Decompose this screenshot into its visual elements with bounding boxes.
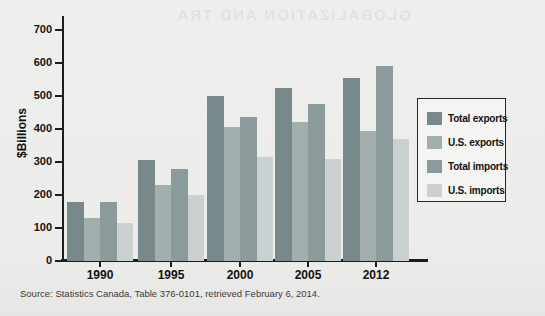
y-tick-label: 0 xyxy=(24,254,52,266)
y-tick-mark xyxy=(55,62,62,64)
bar-total-imports-2012 xyxy=(376,66,393,261)
bar-total-exports-2000 xyxy=(207,96,224,261)
y-axis-line xyxy=(62,16,64,262)
legend-label: U.S. exports xyxy=(448,137,504,148)
y-tick-mark xyxy=(55,95,62,97)
legend-item: U.S. imports xyxy=(427,178,505,202)
y-tick-mark xyxy=(55,227,62,229)
x-tick-label: 1990 xyxy=(78,268,122,282)
bar-total-imports-1995 xyxy=(171,169,188,261)
y-tick-label: 100 xyxy=(24,221,52,233)
y-tick-label: 200 xyxy=(24,188,52,200)
bar-u-s-exports-2005 xyxy=(292,122,309,261)
legend-item: Total imports xyxy=(427,154,505,178)
bar-total-imports-2000 xyxy=(240,117,257,261)
bar-u-s-imports-1995 xyxy=(188,195,205,261)
bar-total-imports-1990 xyxy=(100,202,117,261)
x-tick-label: 2005 xyxy=(286,268,330,282)
bar-u-s-imports-2005 xyxy=(325,159,342,261)
bar-u-s-imports-1990 xyxy=(117,223,134,261)
y-tick-mark xyxy=(55,260,62,262)
source-note: Source: Statistics Canada, Table 376-010… xyxy=(20,288,320,299)
x-tick-mark xyxy=(375,262,377,267)
textbook-figure: GLOBALIZATION AND TRA $Billions 01002003… xyxy=(0,0,545,316)
bar-total-imports-2005 xyxy=(308,104,325,261)
x-tick-label: 1995 xyxy=(149,268,193,282)
x-tick-label: 2012 xyxy=(354,268,398,282)
x-tick-mark xyxy=(170,262,172,267)
legend-label: Total exports xyxy=(448,113,507,124)
legend: Total exportsU.S. exportsTotal importsU.… xyxy=(417,98,506,202)
y-tick-label: 600 xyxy=(24,56,52,68)
y-tick-mark xyxy=(55,194,62,196)
legend-swatch xyxy=(427,160,442,173)
page-bleed-through-text: GLOBALIZATION AND TRA xyxy=(158,6,428,23)
bar-total-exports-2005 xyxy=(275,88,292,261)
y-tick-mark xyxy=(55,29,62,31)
x-tick-mark xyxy=(307,262,309,267)
x-tick-mark xyxy=(99,262,101,267)
bar-total-exports-1995 xyxy=(138,160,155,261)
legend-swatch xyxy=(427,184,442,197)
y-tick-label: 300 xyxy=(24,155,52,167)
legend-label: Total imports xyxy=(448,161,508,172)
x-tick-mark xyxy=(239,262,241,267)
y-tick-label: 500 xyxy=(24,89,52,101)
bar-u-s-exports-2012 xyxy=(360,131,377,261)
bar-u-s-exports-1990 xyxy=(84,218,101,261)
bar-u-s-exports-1995 xyxy=(155,185,172,261)
bar-u-s-exports-2000 xyxy=(224,127,241,261)
bar-u-s-imports-2000 xyxy=(257,157,274,261)
bar-u-s-imports-2012 xyxy=(393,139,410,261)
y-tick-label: 400 xyxy=(24,122,52,134)
y-tick-label: 700 xyxy=(24,23,52,35)
legend-label: U.S. imports xyxy=(448,185,505,196)
legend-swatch xyxy=(427,136,442,149)
x-tick-label: 2000 xyxy=(218,268,262,282)
legend-item: U.S. exports xyxy=(427,130,505,154)
bar-total-exports-2012 xyxy=(343,78,360,261)
legend-item: Total exports xyxy=(427,106,505,130)
legend-swatch xyxy=(427,112,442,125)
y-tick-mark xyxy=(55,161,62,163)
y-tick-mark xyxy=(55,128,62,130)
bar-total-exports-1990 xyxy=(67,202,84,261)
